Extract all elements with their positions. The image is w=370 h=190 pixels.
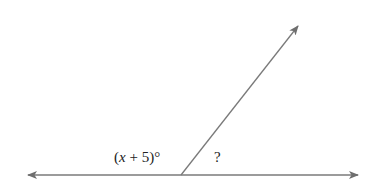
left-angle-expression: + 5)°	[126, 149, 160, 165]
variable-x: x	[119, 149, 126, 165]
angle-diagram	[0, 0, 370, 190]
unknown-angle-label: ?	[214, 149, 221, 166]
left-angle-label: (x + 5)°	[114, 149, 160, 166]
ray-line	[181, 26, 298, 175]
